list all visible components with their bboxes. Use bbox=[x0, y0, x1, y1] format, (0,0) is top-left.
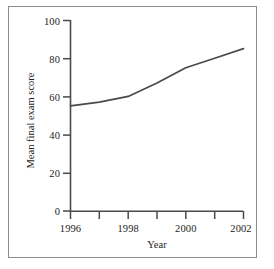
x-axis-label: Year bbox=[70, 239, 244, 250]
x-axis-ticks bbox=[71, 211, 244, 219]
y-tick-label-80: 80 bbox=[38, 53, 60, 64]
y-tick-label-60: 60 bbox=[38, 91, 60, 102]
x-tick-label-2002: 2002 bbox=[230, 223, 251, 234]
x-tick-label-1996: 1996 bbox=[60, 223, 81, 234]
y-tick-label-20: 20 bbox=[38, 168, 60, 179]
y-tick-label-100: 100 bbox=[38, 15, 60, 26]
figure: 100 80 60 40 20 0 1996 1998 2000 2002 Me… bbox=[0, 0, 274, 269]
x-tick-label-1998: 1998 bbox=[117, 223, 138, 234]
y-axis-label: Mean final exam score bbox=[25, 31, 36, 211]
y-tick-label-0: 0 bbox=[38, 206, 60, 217]
y-axis-ticks bbox=[63, 21, 70, 212]
x-tick-label-2000: 2000 bbox=[175, 223, 196, 234]
y-tick-label-40: 40 bbox=[38, 130, 60, 141]
data-series-line bbox=[71, 49, 244, 106]
